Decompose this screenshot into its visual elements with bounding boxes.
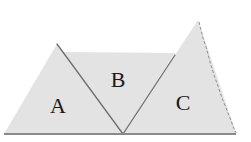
triangle-pieces-diagram (0, 0, 251, 142)
label-c: C (176, 92, 191, 114)
label-b: B (111, 69, 126, 91)
label-a: A (50, 95, 66, 117)
